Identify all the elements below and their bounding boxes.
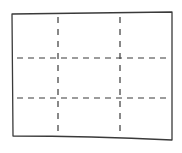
vertical-dividers: [58, 17, 120, 135]
horizontal-dividers: [17, 58, 168, 98]
grid-sketch: [0, 0, 182, 153]
outer-rectangle: [12, 12, 172, 140]
grid-sketch-svg: [0, 0, 182, 153]
